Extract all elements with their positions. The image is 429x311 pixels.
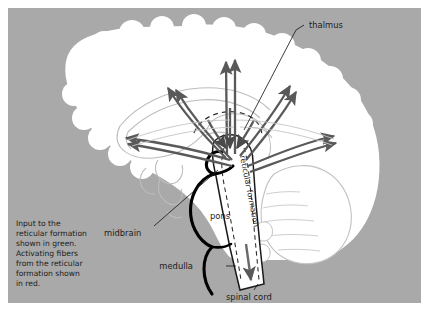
label-medulla: medulla — [159, 261, 193, 271]
label-spinal-cord: spinal cord — [226, 292, 272, 302]
caption-line-6: formation shown — [16, 269, 80, 278]
label-thalmus: thalmus — [309, 20, 343, 30]
caption-line-2: reticular formation — [16, 229, 87, 238]
caption-line-3: shown in green. — [16, 239, 77, 248]
caption-line-1: Input to the — [16, 219, 61, 228]
caption-line-5: from the reticular — [16, 259, 83, 268]
diagram-panel: thalmus pons midbrain medulla spinal cor… — [8, 8, 421, 303]
caption-block: Input to the reticular formation shown i… — [16, 219, 87, 288]
caption-line-4: Activating fibers — [16, 249, 78, 258]
label-pons: pons — [210, 211, 230, 221]
caption-line-7: in red. — [16, 279, 40, 288]
brain-diagram: thalmus pons midbrain medulla spinal cor… — [8, 8, 421, 303]
figure-root: thalmus pons midbrain medulla spinal cor… — [0, 0, 429, 311]
label-midbrain: midbrain — [104, 228, 141, 238]
